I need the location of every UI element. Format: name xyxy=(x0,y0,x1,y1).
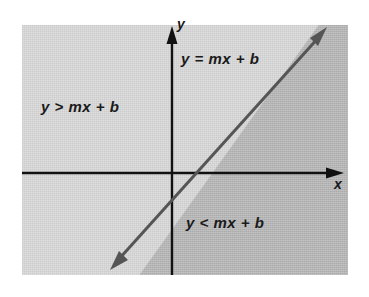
x-axis-label: x xyxy=(334,176,342,192)
y-axis-label: y xyxy=(177,16,185,32)
upper-region-label: y > mx + b xyxy=(41,98,119,115)
boundary-line-equation-label: y = mx + b xyxy=(181,50,259,67)
lower-region-label: y < mx + b xyxy=(186,214,264,231)
inequality-diagram: y = mx + b y > mx + b y < mx + b y x xyxy=(0,0,369,297)
